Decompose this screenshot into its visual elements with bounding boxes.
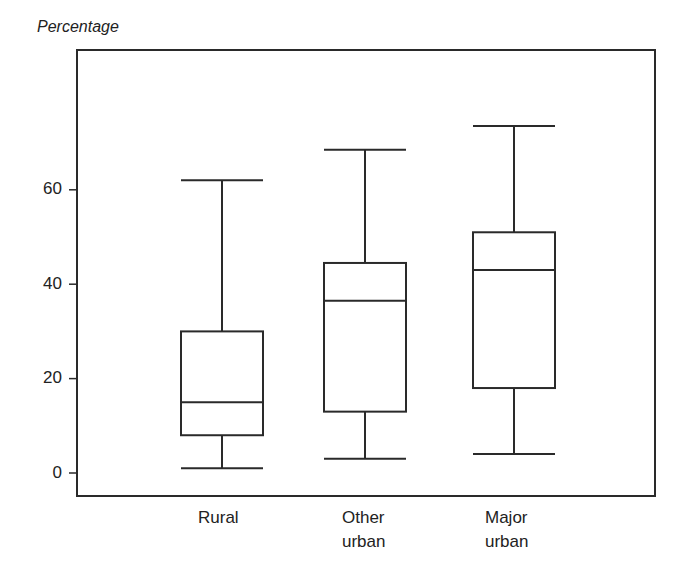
x-category-rural-line1: Rural [198, 506, 239, 530]
x-category-other-urban: Other urban [342, 506, 385, 554]
ytick-label-0: 0 [22, 463, 62, 483]
x-category-major-urban-line2: urban [485, 530, 528, 554]
ytick-label-60: 60 [22, 179, 62, 199]
box-rural [181, 180, 263, 468]
ytick-label-20: 20 [22, 368, 62, 388]
iqr-box [181, 331, 263, 435]
x-category-major-urban-line1: Major [485, 506, 528, 530]
x-category-major-urban: Major urban [485, 506, 528, 554]
x-category-other-urban-line2: urban [342, 530, 385, 554]
x-category-other-urban-line1: Other [342, 506, 385, 530]
iqr-box [324, 263, 406, 412]
boxes [181, 126, 555, 468]
x-category-rural: Rural [198, 506, 239, 530]
y-axis-ticks [69, 190, 77, 473]
box-other-urban [324, 150, 406, 459]
boxplot-chart [0, 0, 687, 574]
iqr-box [473, 232, 555, 388]
box-major-urban [473, 126, 555, 454]
ytick-label-40: 40 [22, 274, 62, 294]
